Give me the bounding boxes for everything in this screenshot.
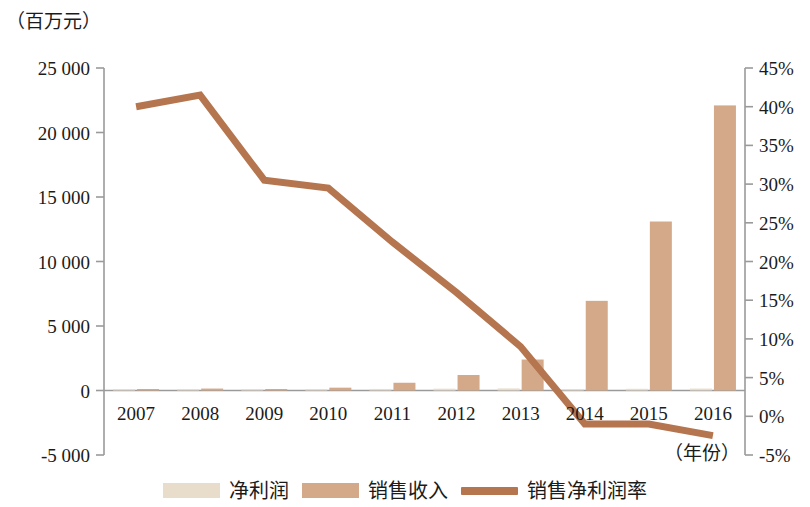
x-axis-tick-label: 2014 [566,403,605,424]
legend-label-net-margin: 销售净利润率 [527,481,647,501]
bar-net-profit [305,389,327,391]
bar-sales-revenue [586,301,608,391]
x-axis-tick-label: 2010 [309,403,347,424]
bar-sales-revenue [714,105,736,390]
bar-net-profit [369,389,391,391]
secondary-y-axis-tick-label: 30% [759,174,794,195]
bar-net-profit [690,389,712,391]
x-axis-tick-label: 2011 [374,403,411,424]
y-axis-tick-label: -5 000 [41,445,90,466]
x-axis-tick-label: 2007 [117,403,155,424]
legend-swatch-net-profit [163,483,220,498]
legend-item-net-profit: 净利润 [163,481,289,501]
secondary-y-axis-tick-label: 20% [759,252,794,273]
legend-label-net-profit: 净利润 [229,481,289,501]
legend-swatch-net-margin [461,487,518,495]
y-axis-tick-label: 15 000 [38,187,90,208]
y-axis-tick-label: 25 000 [38,58,90,79]
secondary-y-axis-tick-label: 35% [759,135,794,156]
legend-item-sales-revenue: 销售收入 [302,481,448,501]
x-axis-tick-label: 2009 [245,403,283,424]
x-axis-tick-label: 2015 [630,403,668,424]
bar-net-profit [113,389,135,391]
bar-net-profit [241,389,263,391]
bar-net-profit [626,389,648,391]
secondary-y-axis-tick-label: 0% [759,406,785,427]
legend-label-sales-revenue: 销售收入 [368,481,448,501]
bar-sales-revenue [137,389,159,391]
chart-legend: 净利润 销售收入 销售净利润率 [0,474,810,507]
line-net-profit-margin [136,95,713,436]
x-axis-tick-label: 2008 [181,403,219,424]
bar-sales-revenue [265,389,287,391]
y-axis-tick-label: 5 000 [47,316,90,337]
y-axis-tick-label: 20 000 [38,123,90,144]
x-axis-unit-label: （年份） [664,438,740,465]
secondary-y-axis-tick-label: 10% [759,329,794,350]
legend-item-net-margin: 销售净利润率 [461,481,647,501]
chart-plot-area: -5 00005 00010 00015 00020 00025 000-5%0… [0,0,810,507]
secondary-y-axis-tick-label: 40% [759,97,794,118]
y-axis-tick-label: 10 000 [38,252,90,273]
bar-net-profit [434,389,456,391]
secondary-y-axis-tick-label: 45% [759,58,794,79]
bar-net-profit [177,389,199,391]
x-axis-tick-label: 2012 [438,403,476,424]
secondary-y-axis-tick-label: 15% [759,290,794,311]
secondary-y-axis-tick-label: 25% [759,213,794,234]
bar-net-profit [498,388,520,390]
bar-sales-revenue [458,375,480,390]
bar-sales-revenue [329,388,351,391]
bar-sales-revenue [650,222,672,391]
bar-sales-revenue [393,383,415,391]
x-axis-tick-label: 2016 [694,403,732,424]
secondary-y-axis-tick-label: 5% [759,368,785,389]
legend-swatch-sales-revenue [302,483,359,498]
secondary-y-axis-tick-label: -5% [759,445,791,466]
x-axis-tick-label: 2013 [502,403,540,424]
chart-root: （百万元） -5 00005 00010 00015 00020 00025 0… [0,0,810,507]
bar-net-profit [562,389,584,391]
y-axis-tick-label: 0 [81,381,91,402]
bar-sales-revenue [201,389,223,391]
